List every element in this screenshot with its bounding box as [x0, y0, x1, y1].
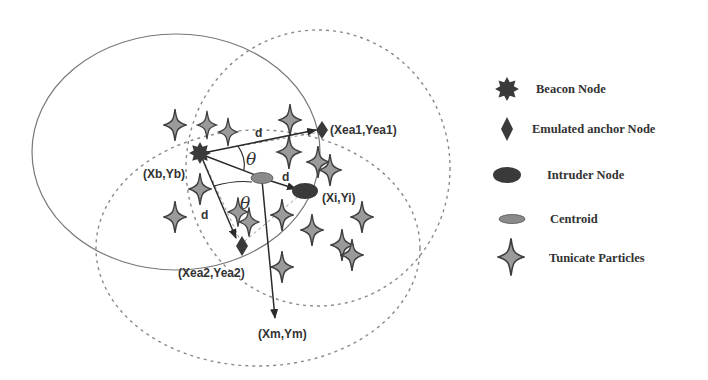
angle-label-upper: θ — [246, 149, 256, 169]
anchor2-coord-label: (Xea2,Yea2) — [178, 266, 245, 280]
angle-label-lower: θ — [240, 193, 250, 213]
angle-arc-lower — [214, 182, 252, 187]
legend-label-intruder: Intruder Node — [547, 168, 625, 182]
distance-label-anchor1: d — [255, 126, 262, 140]
legend: Beacon Node Emulated anchor Node Intrude… — [493, 77, 656, 276]
beacon-node-icon — [189, 142, 211, 164]
legend-centroid-icon — [499, 215, 525, 224]
distance-label-intruder: d — [282, 170, 289, 184]
tunicate-particle-icon — [351, 201, 373, 233]
tunicate-particle-icon — [271, 251, 293, 283]
tunicate-particle-icon — [164, 109, 186, 141]
angle-arc-upper — [238, 146, 244, 170]
tunicate-particle-icon — [164, 201, 186, 233]
arrow-centroid-to-target — [262, 180, 275, 318]
legend-label-beacon: Beacon Node — [536, 82, 606, 96]
target-coord-label: (Xm,Ym) — [258, 327, 307, 341]
intruder-node-icon — [292, 183, 318, 199]
intruder-coord-label: (Xi,Yi) — [322, 191, 356, 205]
tunicate-particle-icon — [218, 118, 237, 146]
legend-intruder-node-icon — [493, 167, 521, 183]
tunicate-particle-icon — [189, 173, 211, 205]
arrow-beacon-to-anchor2 — [202, 158, 236, 238]
beacon-coord-label: (Xb,Yb) — [143, 167, 185, 181]
emulated-anchor1-icon — [316, 121, 328, 139]
legend-label-centroid: Centroid — [550, 212, 598, 226]
legend-label-emulated-anchor: Emulated anchor Node — [532, 122, 656, 136]
legend-label-tunicate: Tunicate Particles — [549, 251, 645, 265]
distance-label-anchor2: d — [201, 208, 208, 222]
tunicate-particle-icon — [271, 199, 293, 231]
legend-tunicate-particle-icon — [498, 238, 524, 275]
tunicate-particle-icon — [277, 135, 300, 169]
legend-beacon-node-icon — [495, 77, 519, 101]
anchor1-coord-label: (Xea1,Yea1) — [330, 123, 397, 137]
emulated-anchor2-icon — [236, 236, 248, 256]
localization-diagram: (Xb,Yb) (Xea1,Yea1) (Xea2,Yea2) (Xi,Yi) … — [0, 0, 708, 380]
arrows — [202, 130, 316, 318]
centroid-icon — [251, 173, 273, 184]
tunicate-particle-icon — [301, 214, 323, 246]
legend-emulated-anchor-icon — [501, 117, 513, 141]
